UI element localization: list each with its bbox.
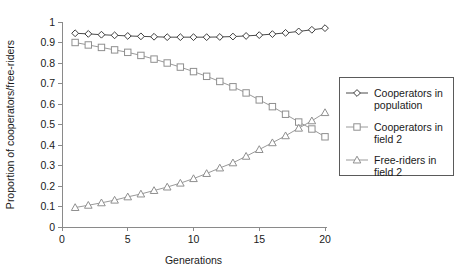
data-point-marker — [295, 28, 302, 35]
x-tick-label: 0 — [59, 233, 65, 245]
data-point-marker — [72, 30, 79, 37]
data-point-marker — [322, 134, 328, 140]
data-point-marker — [230, 33, 237, 40]
legend-label-line2: population — [374, 99, 423, 111]
data-point-marker — [111, 47, 117, 53]
chart-legend: Cooperators inpopulationCooperators infi… — [339, 77, 453, 178]
chart-container: 00.10.20.30.40.50.60.70.80.9105101520Gen… — [0, 0, 458, 273]
x-axis-title: Generations — [165, 254, 222, 266]
legend-label-line1: Cooperators in — [374, 87, 443, 99]
data-point-marker — [151, 33, 158, 40]
x-tick-label: 10 — [188, 233, 200, 245]
series-free-riders-in-field-2 — [71, 109, 328, 211]
y-tick-label: 0.9 — [40, 36, 55, 48]
y-tick-label: 0.3 — [40, 159, 55, 171]
y-tick-label: 0.8 — [40, 57, 55, 69]
data-point-marker — [190, 34, 197, 41]
data-point-marker — [177, 34, 184, 41]
data-point-marker — [308, 117, 316, 124]
axis-labels: 00.10.20.30.40.50.60.70.80.9105101520Gen… — [4, 16, 331, 266]
y-tick-label: 1 — [49, 16, 55, 28]
data-point-marker — [256, 32, 263, 39]
data-point-marker — [269, 103, 275, 109]
data-point-marker — [190, 175, 198, 182]
data-point-marker — [217, 78, 223, 84]
series-line — [75, 113, 325, 208]
data-point-marker — [98, 31, 105, 38]
data-point-marker — [256, 97, 262, 103]
data-point-marker — [242, 152, 250, 159]
data-point-marker — [124, 33, 131, 40]
y-axis-title: Proportion of cooperators/free-riders — [4, 40, 16, 209]
series-cooperators-in-population — [72, 25, 329, 41]
data-point-marker — [282, 111, 288, 117]
data-point-marker — [269, 31, 276, 38]
data-point-marker — [255, 146, 263, 153]
data-point-marker — [229, 159, 237, 166]
data-point-marker — [138, 33, 145, 40]
data-point-marker — [164, 34, 171, 41]
data-point-marker — [203, 170, 211, 177]
data-point-marker — [230, 84, 236, 90]
data-point-marker — [164, 60, 170, 66]
legend-label-line1: Free-riders in — [374, 154, 437, 166]
legend-label-line2: field 2 — [374, 133, 402, 145]
data-point-marker — [138, 52, 144, 58]
data-point-marker — [322, 25, 329, 32]
y-tick-label: 0.1 — [40, 200, 55, 212]
data-point-marker — [85, 30, 92, 37]
data-point-marker — [321, 109, 329, 116]
axes — [58, 22, 327, 231]
x-tick-label: 15 — [253, 233, 265, 245]
y-tick-label: 0.7 — [40, 77, 55, 89]
data-point-marker — [125, 49, 131, 55]
data-point-marker — [216, 164, 224, 171]
data-point-marker — [309, 126, 315, 132]
data-point-marker — [308, 26, 315, 33]
y-tick-label: 0.6 — [40, 98, 55, 110]
data-series-layer — [71, 25, 328, 211]
legend-marker — [354, 124, 360, 130]
data-point-marker — [243, 33, 250, 40]
x-tick-label: 5 — [125, 233, 131, 245]
y-tick-label: 0.4 — [40, 139, 55, 151]
data-point-marker — [177, 64, 183, 70]
line-chart: 00.10.20.30.40.50.60.70.80.9105101520Gen… — [0, 0, 458, 273]
data-point-marker — [85, 42, 91, 48]
data-point-marker — [243, 90, 249, 96]
x-tick-label: 20 — [319, 233, 331, 245]
data-point-marker — [190, 68, 196, 74]
data-point-marker — [98, 44, 104, 50]
data-point-marker — [216, 34, 223, 41]
legend-label-line1: Cooperators in — [374, 121, 443, 133]
legend-label-line2: field 2 — [374, 166, 402, 178]
data-point-marker — [203, 34, 210, 41]
series-cooperators-in-field-2 — [72, 39, 328, 140]
y-tick-label: 0.2 — [40, 180, 55, 192]
data-point-marker — [111, 32, 118, 39]
data-point-marker — [203, 73, 209, 79]
data-point-marker — [282, 132, 290, 139]
series-line — [75, 43, 325, 137]
y-tick-label: 0.5 — [40, 118, 55, 130]
data-point-marker — [151, 56, 157, 62]
y-tick-label: 0 — [49, 221, 55, 233]
data-point-marker — [72, 39, 78, 45]
data-point-marker — [282, 29, 289, 36]
data-point-marker — [269, 139, 277, 146]
